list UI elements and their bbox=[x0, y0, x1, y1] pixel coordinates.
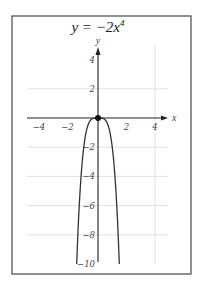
y-tick-label: −6 bbox=[82, 201, 95, 211]
y-tick-label: 4 bbox=[89, 55, 95, 65]
chart-title: y = −2x4 bbox=[69, 18, 125, 35]
y-axis-label: y bbox=[95, 35, 101, 46]
vertex-point bbox=[95, 115, 101, 121]
y-tick-label: −8 bbox=[82, 230, 95, 240]
y-axis-arrow-icon bbox=[96, 47, 101, 55]
x-tick-label: −2 bbox=[61, 122, 74, 132]
y-tick-label: −4 bbox=[82, 171, 95, 181]
x-axis-arrow-icon bbox=[161, 116, 168, 121]
y-tick-label: −2 bbox=[82, 142, 95, 152]
y-tick-label: −10 bbox=[77, 259, 96, 269]
x-tick-label: 2 bbox=[123, 122, 129, 132]
y-tick-label: 2 bbox=[89, 84, 95, 94]
chart-figure: y = −2x4 xy−4−22442−2−4−6−8−10 bbox=[0, 0, 198, 288]
x-tick-label: −4 bbox=[33, 122, 46, 132]
chart-frame bbox=[12, 16, 191, 274]
x-axis-label: x bbox=[171, 112, 177, 123]
x-tick-label: 4 bbox=[151, 122, 157, 132]
axes bbox=[27, 47, 168, 262]
